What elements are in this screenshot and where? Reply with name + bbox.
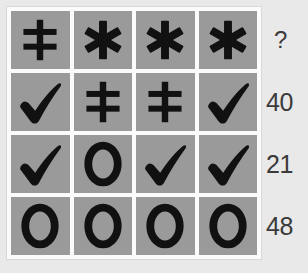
grid-cell-r2c2[interactable] <box>74 73 133 131</box>
row-label-column: ?402148 <box>266 11 308 255</box>
row-label-2: 40 <box>266 73 308 131</box>
grid-cell-r2c1[interactable] <box>11 73 70 131</box>
grid-cell-r4c1[interactable] <box>11 197 70 255</box>
row-label-4: 48 <box>266 197 308 255</box>
checkmark-icon <box>16 140 64 188</box>
grid-cell-r2c3[interactable] <box>136 73 195 131</box>
checkmark-icon <box>204 78 252 126</box>
grid-cell-r4c3[interactable] <box>136 197 195 255</box>
grid-cell-r1c2[interactable] <box>74 11 133 69</box>
asterisk-icon <box>206 18 250 62</box>
grid-cell-r3c3[interactable] <box>136 135 195 193</box>
symbol-grid <box>11 11 257 255</box>
grid-cell-r2c4[interactable] <box>199 73 258 131</box>
checkmark-icon <box>204 140 252 188</box>
row-label-1: ? <box>266 11 308 69</box>
grid-cell-r3c4[interactable] <box>199 135 258 193</box>
asterisk-icon <box>81 18 125 62</box>
checkmark-icon <box>141 140 189 188</box>
grid-cell-r4c2[interactable] <box>74 197 133 255</box>
asterisk-icon <box>143 18 187 62</box>
double-dagger-icon <box>142 79 188 125</box>
grid-cell-r1c3[interactable] <box>136 11 195 69</box>
puzzle-root: ?402148 <box>0 0 308 273</box>
checkmark-icon <box>16 78 64 126</box>
grid-cell-r3c1[interactable] <box>11 135 70 193</box>
double-dagger-icon <box>80 79 126 125</box>
ring-o-icon <box>80 203 126 249</box>
ring-o-icon <box>80 141 126 187</box>
grid-cell-r4c4[interactable] <box>199 197 258 255</box>
grid-cell-r3c2[interactable] <box>74 135 133 193</box>
ring-o-icon <box>17 203 63 249</box>
ring-o-icon <box>205 203 251 249</box>
grid-cell-r1c4[interactable] <box>199 11 258 69</box>
grid-cell-r1c1[interactable] <box>11 11 70 69</box>
double-dagger-icon <box>17 17 63 63</box>
row-label-3: 21 <box>266 135 308 193</box>
ring-o-icon <box>142 203 188 249</box>
